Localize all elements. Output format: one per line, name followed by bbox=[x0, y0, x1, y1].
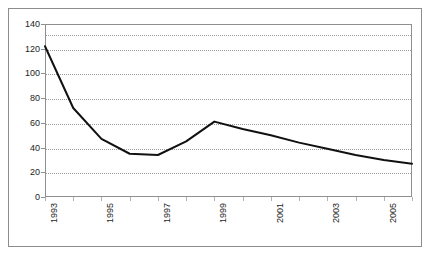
y-axis-tick-label: 100 bbox=[25, 68, 40, 78]
x-axis-tick-mark bbox=[271, 197, 272, 201]
x-axis-tick-label: 2001 bbox=[275, 203, 285, 223]
line-series-layer bbox=[45, 24, 412, 197]
y-axis-tick-label: 80 bbox=[30, 93, 40, 103]
x-axis-tick-label: 1997 bbox=[162, 203, 172, 223]
x-axis-tick-mark bbox=[158, 197, 159, 201]
x-axis-tick-label: 1999 bbox=[218, 203, 228, 223]
y-axis-tick-label: 40 bbox=[30, 143, 40, 153]
x-axis-tick-mark bbox=[356, 197, 357, 201]
x-axis-tick-mark bbox=[73, 197, 74, 201]
x-axis-tick-mark bbox=[101, 197, 102, 201]
line-series-path bbox=[45, 46, 412, 163]
y-axis-tick-label: 60 bbox=[30, 118, 40, 128]
x-axis-tick-mark bbox=[214, 197, 215, 201]
x-axis-tick-mark bbox=[130, 197, 131, 201]
x-axis-tick-label: 1993 bbox=[49, 203, 59, 223]
x-axis-tick-label: 1995 bbox=[105, 203, 115, 223]
y-axis-tick-labels: 020406080100120140 bbox=[14, 0, 40, 256]
x-axis-tick-mark bbox=[299, 197, 300, 201]
x-axis-tick-mark bbox=[327, 197, 328, 201]
x-axis-tick-mark bbox=[384, 197, 385, 201]
y-axis-tick-label: 120 bbox=[25, 44, 40, 54]
x-axis-tick-label: 2003 bbox=[331, 203, 341, 223]
x-axis-tick-label: 2005 bbox=[388, 203, 398, 223]
x-axis-tick-mark bbox=[186, 197, 187, 201]
chart-figure: 020406080100120140 199319951997199920012… bbox=[0, 0, 430, 256]
y-axis-tick-label: 0 bbox=[35, 192, 40, 202]
x-axis-tick-mark bbox=[243, 197, 244, 201]
y-axis-tick-label: 140 bbox=[25, 19, 40, 29]
y-axis-tick-label: 20 bbox=[30, 167, 40, 177]
x-axis-tick-mark bbox=[412, 197, 413, 201]
x-axis-tick-mark bbox=[45, 197, 46, 201]
